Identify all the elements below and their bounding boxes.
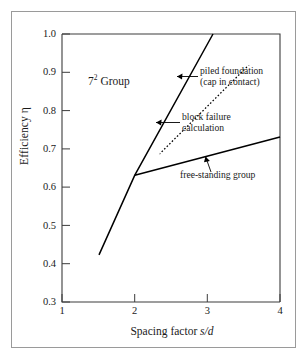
leader-block-failure <box>156 120 180 126</box>
x-axis-title: Spacing factor s/d <box>62 325 282 337</box>
y-tick-label: 0.9 <box>30 66 56 77</box>
y-axis-title: Efficiency η <box>18 76 30 196</box>
group-label-suffix: Group <box>98 75 130 87</box>
y-tick-label: 0.5 <box>30 220 56 231</box>
x-tick-label: 4 <box>270 305 290 316</box>
x-tick-label: 2 <box>125 305 145 316</box>
y-tick-label: 0.4 <box>30 258 56 269</box>
annotation-free-standing-group-line1: free-standing group <box>180 169 255 180</box>
figure-root: 1.0 0.9 0.8 0.7 0.6 0.5 0.4 0.3 1 2 3 4 … <box>0 0 308 359</box>
annotation-piled-foundation-line1: piled foundation <box>200 65 263 76</box>
x-tick-label: 3 <box>197 305 217 316</box>
x-axis-title-plain: Spacing factor <box>130 325 200 337</box>
x-axis-ticks <box>62 294 280 302</box>
x-axis-title-italic: s/d <box>200 325 213 337</box>
y-tick-label: 0.6 <box>30 181 56 192</box>
y-tick-label: 0.7 <box>30 143 56 154</box>
group-label: 72 Group <box>88 73 130 87</box>
annotation-piled-foundation-line2: (cap in contact) <box>200 77 263 88</box>
series-piled-foundation <box>99 34 213 255</box>
annotation-free-standing-group: free-standing group <box>180 170 255 181</box>
x-tick-label: 1 <box>52 305 72 316</box>
annotation-piled-foundation: piled foundation (cap in contact) <box>200 66 263 87</box>
y-tick-label: 1.0 <box>30 28 56 39</box>
annotation-block-failure-line1: block failure <box>182 111 231 122</box>
y-tick-label: 0.8 <box>30 105 56 116</box>
y-axis-ticks <box>62 34 70 302</box>
annotation-block-failure: block failure calculation <box>182 112 231 133</box>
annotation-block-failure-line2: calculation <box>182 123 231 134</box>
